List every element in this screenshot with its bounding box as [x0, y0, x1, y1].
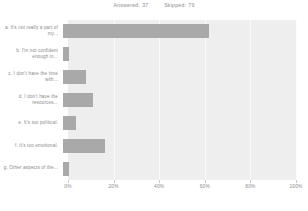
answered-value: 37 — [142, 2, 148, 8]
bar-row: b. I'm not confident enough in... — [0, 43, 308, 66]
category-label: b. I'm not confident enough in... — [0, 48, 63, 60]
x-tick-mark — [68, 180, 69, 183]
bar-row: c. I don't have the time with... — [0, 66, 308, 89]
x-tick-mark — [250, 180, 251, 183]
bar-rows: a. It's not really a part of my...b. I'm… — [0, 20, 308, 180]
category-label: g. Other aspects of the... — [0, 165, 63, 171]
bar-row: d. I don't have the resources... — [0, 89, 308, 112]
bar-row: f. It's too emotional. — [0, 134, 308, 157]
bar-track — [63, 111, 291, 134]
bar-track — [63, 157, 291, 180]
x-axis: 0%20%40%60%80%100% — [68, 180, 296, 200]
x-tick-label: 0% — [64, 184, 71, 189]
x-tick-mark — [114, 180, 115, 183]
bar[interactable] — [63, 47, 69, 61]
bar-track — [63, 20, 291, 43]
bar-track — [63, 89, 291, 112]
category-label: c. I don't have the time with... — [0, 71, 63, 83]
skipped-stat: Skipped:79 — [164, 2, 194, 8]
bar[interactable] — [63, 70, 86, 84]
category-label: d. I don't have the resources... — [0, 94, 63, 106]
survey-response-chart: Answered:37 Skipped:79 a. It's not reall… — [0, 0, 308, 211]
x-tick-mark — [159, 180, 160, 183]
bar[interactable] — [63, 139, 105, 153]
response-summary-header: Answered:37 Skipped:79 — [0, 2, 308, 8]
x-tick-label: 40% — [154, 184, 164, 189]
answered-stat: Answered:37 — [113, 2, 148, 8]
x-tick-mark — [296, 180, 297, 183]
category-label: a. It's not really a part of my... — [0, 25, 63, 37]
skipped-value: 79 — [188, 2, 194, 8]
bar-track — [63, 66, 291, 89]
bar[interactable] — [63, 162, 69, 176]
x-tick-label: 80% — [245, 184, 255, 189]
x-tick-label: 60% — [200, 184, 210, 189]
x-tick-label: 100% — [289, 184, 302, 189]
bar-row: a. It's not really a part of my... — [0, 20, 308, 43]
x-tick-label: 20% — [108, 184, 118, 189]
category-label: e. It's too political. — [0, 120, 63, 126]
bar[interactable] — [63, 93, 93, 107]
bar-row: e. It's too political. — [0, 111, 308, 134]
bar[interactable] — [63, 116, 76, 130]
bar-row: g. Other aspects of the... — [0, 157, 308, 180]
skipped-label: Skipped: — [164, 2, 186, 8]
bar-track — [63, 43, 291, 66]
bar[interactable] — [63, 24, 209, 38]
bar-track — [63, 134, 291, 157]
x-tick-mark — [205, 180, 206, 183]
answered-label: Answered: — [113, 2, 140, 8]
category-label: f. It's too emotional. — [0, 143, 63, 149]
